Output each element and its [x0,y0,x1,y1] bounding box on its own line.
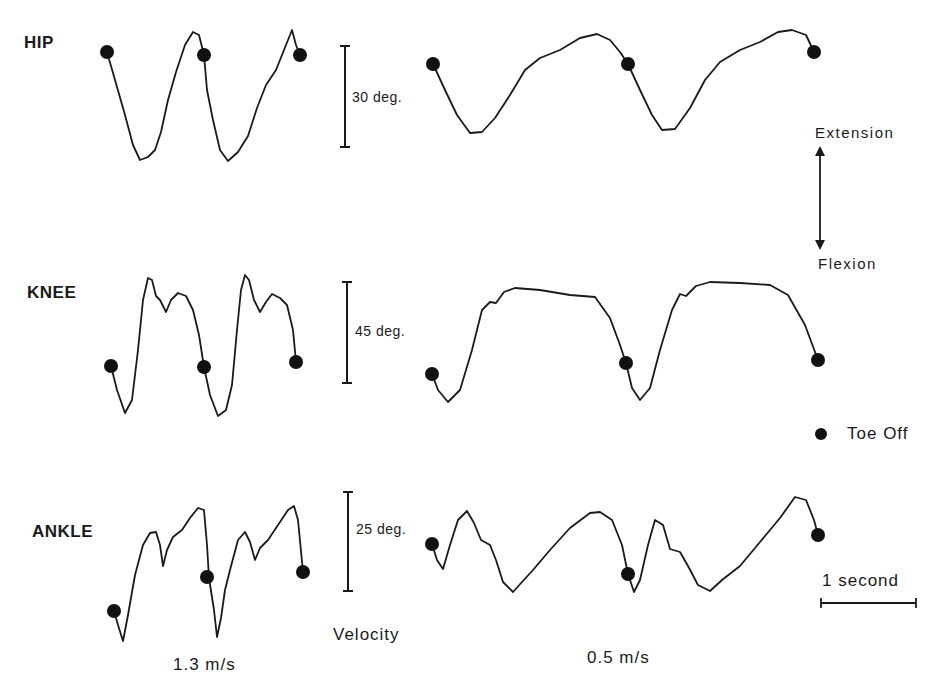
extension-flexion-arrow-icon [815,146,825,250]
velocity-slow-label: 0.5 m/s [587,648,650,668]
knee-scale-bar [342,282,352,383]
toe-off-marker-icon [621,567,635,581]
joint-label-hip: HIP [24,33,54,53]
knee-scale-label: 45 deg. [355,323,405,339]
joint-label-knee: KNEE [27,283,76,303]
trace-knee-slow [432,282,818,402]
toe-off-marker-icon [425,367,439,381]
velocity-label: Velocity [333,625,400,645]
toe-off-legend-label: Toe Off [847,424,909,444]
toe-off-marker-icon [621,57,635,71]
toe-off-markers [100,45,825,618]
toe-off-marker-icon [197,360,211,374]
toe-off-marker-icon [289,355,303,369]
toe-off-marker-icon [107,604,121,618]
hip-scale-bar [340,46,350,147]
toe-off-marker-icon [197,48,211,62]
toe-off-marker-icon [619,356,633,370]
toe-off-marker-icon [811,528,825,542]
toe-off-marker-icon [100,45,114,59]
trace-hip-slow [433,30,814,133]
joint-label-ankle: ANKLE [32,522,93,542]
time-scale-bar [821,598,916,608]
hip-scale-label: 30 deg. [352,89,402,105]
toe-off-marker-icon [811,353,825,367]
velocity-fast-label: 1.3 m/s [173,655,236,675]
toe-off-marker-icon [296,565,310,579]
ankle-scale-label: 25 deg. [356,521,406,537]
toe-off-marker-icon [425,537,439,551]
toe-off-marker-icon [293,48,307,62]
toe-off-marker-icon [200,570,214,584]
trace-knee-fast [111,275,296,416]
extension-label: Extension [815,124,894,141]
gait-figure [0,0,940,690]
ankle-scale-bar [343,492,353,591]
joint-angle-traces [107,30,818,641]
time-scale-label: 1 second [822,571,899,591]
toe-off-marker-icon [807,45,821,59]
toe-off-marker-icon [104,359,118,373]
toe-off-legend-dot-icon [815,428,827,440]
flexion-label: Flexion [818,255,877,272]
toe-off-marker-icon [426,57,440,71]
